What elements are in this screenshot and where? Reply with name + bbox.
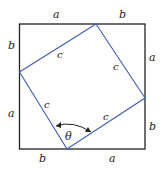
inner-square (20, 24, 146, 149)
arrow-left-icon (56, 122, 61, 128)
label-bottom-b: b (39, 152, 46, 165)
label-c-top-left: c (57, 49, 63, 60)
label-left-b: b (8, 39, 15, 52)
label-bottom-a: a (109, 152, 116, 165)
pythagorean-diagram: a b a b b a b a c c c c θ (0, 0, 164, 169)
outer-square (20, 24, 146, 149)
label-right-a: a (149, 51, 156, 64)
label-top-b: b (119, 8, 126, 21)
label-c-bottom-left: c (44, 99, 50, 110)
label-left-a: a (8, 107, 15, 120)
label-top-a: a (53, 8, 60, 21)
label-c-bottom-right: c (103, 111, 109, 122)
label-right-b: b (149, 120, 156, 133)
label-c-top-right: c (113, 61, 119, 72)
angle-theta-label: θ (65, 130, 72, 143)
